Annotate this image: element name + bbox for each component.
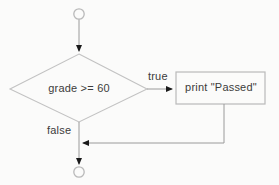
process-node-label: print "Passed"	[176, 81, 266, 93]
false-branch-label: false	[47, 124, 71, 136]
true-branch-label: true	[148, 70, 168, 82]
flowchart-canvas: grade >= 60 true false print "Passed"	[0, 0, 279, 185]
decision-node-label: grade >= 60	[0, 82, 158, 94]
start-terminator-node	[74, 9, 84, 19]
end-terminator-node	[74, 167, 84, 177]
